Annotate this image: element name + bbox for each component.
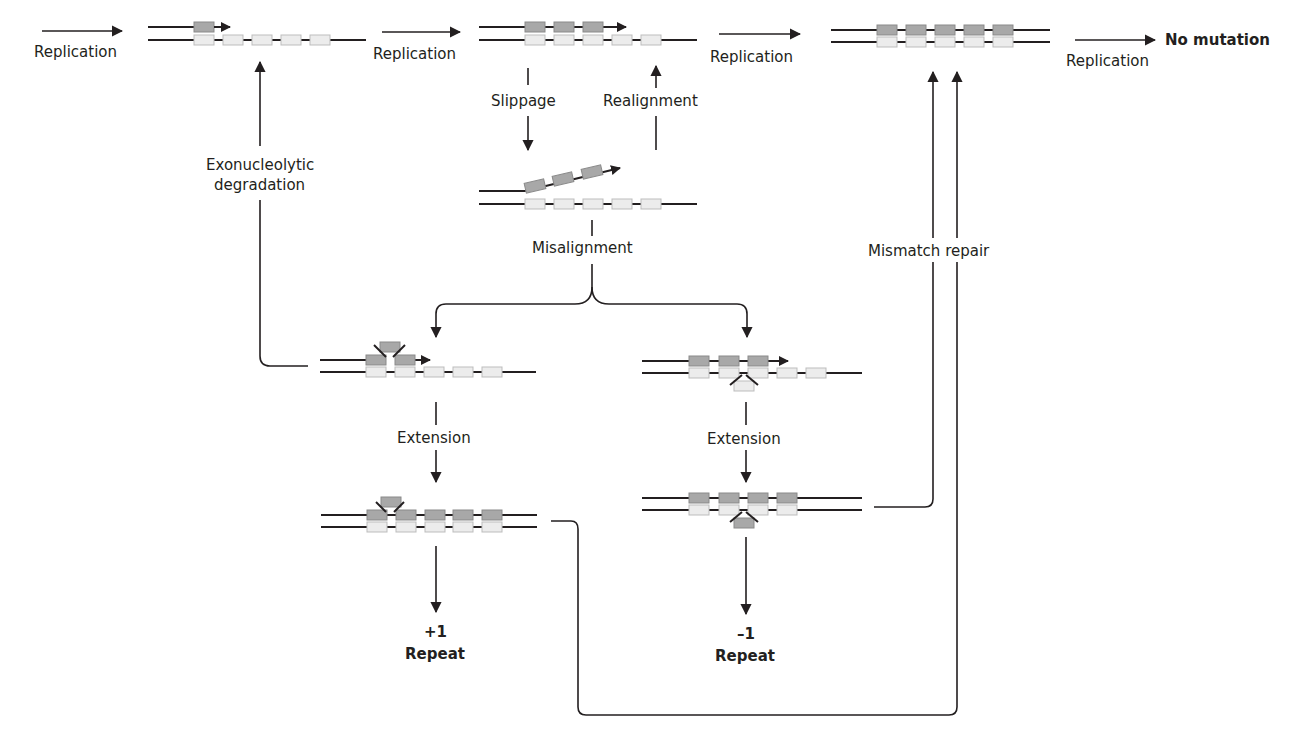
replication-label-3: Replication <box>710 48 793 66</box>
plus-one-label: +1 <box>424 623 447 641</box>
diagram-canvas: Replication Replication Replication <box>0 0 1307 741</box>
exonucleolytic-label-line1: Exonucleolytic <box>206 156 314 174</box>
replication-label-1: Replication <box>34 43 117 61</box>
plus-repeat-label: Repeat <box>405 645 465 663</box>
template-loop <box>734 381 754 391</box>
extra-repeat-loop <box>381 497 401 507</box>
replication-label-4: Replication <box>1066 52 1149 70</box>
duplex-extended-plus <box>321 497 537 532</box>
extension-label-right: Extension <box>707 430 781 448</box>
slippage-label: Slippage <box>491 92 556 110</box>
missing-repeat-loop <box>734 518 754 528</box>
duplex-start <box>148 22 366 45</box>
replication-label-2: Replication <box>373 45 456 63</box>
replication-arrow-2: Replication <box>373 32 460 63</box>
minus-repeat-label: Repeat <box>715 647 775 665</box>
extra-repeat-loop <box>380 342 400 352</box>
replication-arrow-3: Replication <box>710 34 800 66</box>
exonucleolytic-label-line2: degradation <box>214 176 305 194</box>
duplex-loop-new-strand <box>320 342 536 377</box>
duplex-extended-minus <box>642 493 862 528</box>
duplex-slipped <box>479 165 697 209</box>
minus-one-label: –1 <box>737 625 755 643</box>
duplex-complete <box>831 25 1050 47</box>
extension-label-left: Extension <box>397 429 471 447</box>
fork-right-arrow-icon <box>592 287 747 337</box>
no-mutation-outcome: No mutation <box>1165 31 1270 49</box>
fork-left-arrow-icon <box>436 287 592 337</box>
duplex-mid <box>479 22 697 45</box>
realignment-label: Realignment <box>603 92 698 110</box>
misalignment-label: Misalignment <box>532 239 633 257</box>
repeat-unit-new <box>194 22 214 32</box>
duplex-loop-template-strand <box>642 356 862 391</box>
replication-arrow-1: Replication <box>34 31 122 61</box>
replication-arrow-4: Replication No mutation <box>1066 31 1270 70</box>
mismatch-repair-label: Mismatch repair <box>868 242 990 260</box>
